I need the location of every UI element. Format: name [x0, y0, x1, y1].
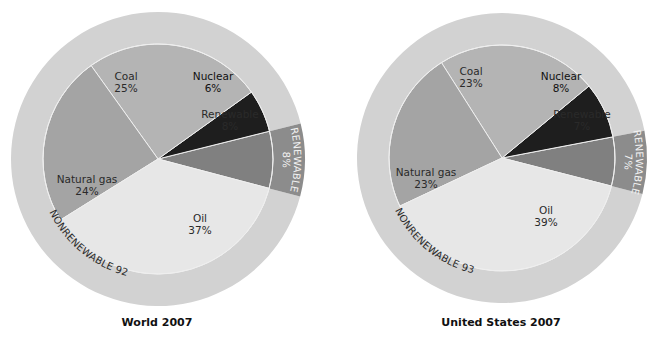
label-coal-percent: 25% — [114, 82, 137, 94]
label-coal: Coal — [459, 65, 482, 77]
world-2007-pie-chart: Renewable8%Nuclear6%Coal25%Natural gas24… — [0, 0, 305, 329]
label-oil: Oil — [539, 204, 553, 216]
label-coal-percent: 23% — [459, 77, 482, 89]
label-oil: Oil — [193, 212, 207, 224]
label-coal: Coal — [114, 70, 137, 82]
label-natural-gas: Natural gas — [57, 173, 118, 185]
label-nuclear-percent: 8% — [553, 82, 570, 94]
label-natural-gas-percent: 24% — [75, 185, 98, 197]
label-nuclear: Nuclear — [193, 70, 234, 82]
renewable-ring-percent: 8% — [281, 151, 292, 168]
renewable-ring-percent: 7% — [623, 154, 635, 171]
label-natural-gas: Natural gas — [396, 166, 457, 178]
label-renewable: Renewable — [201, 108, 258, 120]
world-chart-title: World 2007 — [122, 316, 193, 329]
label-renewable-percent: 7% — [574, 120, 591, 132]
label-nuclear: Nuclear — [541, 70, 582, 82]
label-renewable: Renewable — [553, 108, 610, 120]
label-renewable-percent: 8% — [222, 120, 239, 132]
us-chart-title: United States 2007 — [441, 316, 560, 329]
label-oil-percent: 37% — [188, 224, 211, 236]
label-oil-percent: 39% — [534, 216, 557, 228]
label-natural-gas-percent: 23% — [414, 178, 437, 190]
energy-consumption-pie-charts: Renewable8%Nuclear6%Coal25%Natural gas24… — [0, 0, 655, 338]
label-nuclear-percent: 6% — [205, 82, 222, 94]
